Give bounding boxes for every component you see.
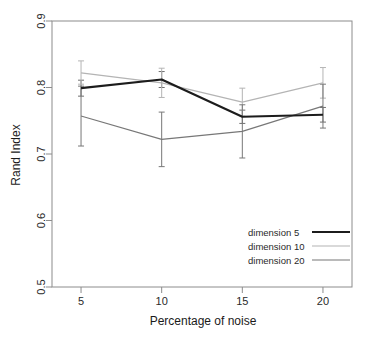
series-lines-group bbox=[81, 73, 323, 139]
legend-label: dimension 10 bbox=[248, 241, 305, 252]
legend[interactable]: dimension 5dimension 10dimension 20 bbox=[248, 227, 350, 266]
plot-border-box bbox=[52, 21, 352, 287]
y-tick-label: 0.5 bbox=[35, 279, 47, 294]
y-axis-tick-labels: 0.50.60.70.80.9 bbox=[35, 13, 47, 294]
x-axis-title: Percentage of noise bbox=[150, 314, 257, 328]
x-tick-label: 10 bbox=[156, 295, 168, 307]
x-tick-label: 15 bbox=[236, 295, 248, 307]
y-tick-label: 0.8 bbox=[35, 80, 47, 95]
series-line bbox=[81, 106, 323, 139]
y-tick-label: 0.9 bbox=[35, 13, 47, 28]
legend-label: dimension 20 bbox=[248, 255, 305, 266]
line-chart-canvas: 0.50.60.70.80.9 5101520 dimension 5dimen… bbox=[0, 0, 375, 341]
y-axis-title: Rand Index bbox=[9, 124, 23, 185]
y-tick-label: 0.7 bbox=[35, 146, 47, 161]
series-line bbox=[81, 80, 323, 117]
y-axis-tick-marks bbox=[46, 21, 52, 287]
x-tick-label: 20 bbox=[317, 295, 329, 307]
y-tick-label: 0.6 bbox=[35, 213, 47, 228]
legend-label: dimension 5 bbox=[248, 227, 299, 238]
x-tick-label: 5 bbox=[78, 295, 84, 307]
x-axis-tick-labels: 5101520 bbox=[78, 295, 329, 307]
chart-figure: 0.50.60.70.80.9 5101520 dimension 5dimen… bbox=[0, 0, 375, 341]
x-axis-tick-marks bbox=[81, 287, 323, 293]
